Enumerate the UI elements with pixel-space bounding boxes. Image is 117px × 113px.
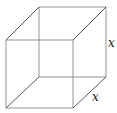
front-face: [6, 40, 73, 108]
right-edge-label: x: [108, 36, 115, 50]
depth-edge-bottom-right: [73, 77, 106, 108]
depth-edge-bottom-left: [6, 77, 39, 108]
cube-svg: x x: [0, 0, 117, 113]
depth-edges: [6, 7, 106, 108]
depth-edge-top-right: [73, 7, 106, 40]
depth-edge-label: x: [92, 90, 99, 104]
depth-edge-top-left: [6, 7, 39, 40]
cube-diagram: x x: [0, 0, 117, 113]
